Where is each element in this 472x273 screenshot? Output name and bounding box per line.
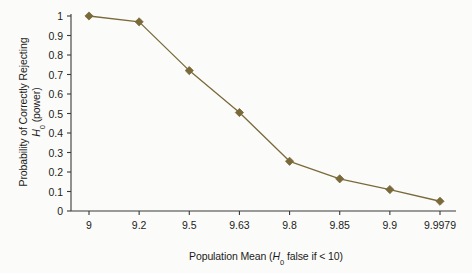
data-point-marker: [336, 175, 344, 183]
data-point-marker: [386, 185, 394, 193]
chart-figure: Probability of Correctly Rejecting H0 (p…: [0, 0, 472, 273]
data-series-power: [85, 12, 444, 205]
data-point-marker: [436, 197, 444, 205]
axes: [67, 14, 456, 215]
data-point-marker: [85, 12, 93, 20]
plot-area: [0, 0, 472, 273]
series-line: [89, 16, 440, 201]
